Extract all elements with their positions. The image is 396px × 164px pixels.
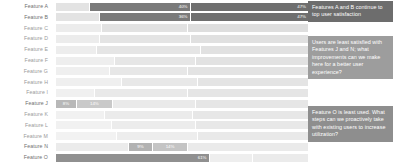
row-label: Feature G <box>0 66 52 77</box>
bar-track <box>56 78 308 86</box>
chart-row: Feature K <box>0 109 308 120</box>
bar-segment <box>188 24 308 32</box>
bar-segment <box>198 78 308 86</box>
bar-segment: 61% <box>56 154 209 162</box>
bar-value-label: 8% <box>56 100 76 108</box>
chart-row: Feature N9%14% <box>0 141 308 152</box>
bar-segment <box>253 154 308 162</box>
bar-segment <box>56 78 121 86</box>
chart-row: Feature I <box>0 87 308 98</box>
bar-segment <box>56 143 128 151</box>
bar-segment <box>113 100 195 108</box>
bar-segment <box>56 3 89 11</box>
bar-segment <box>198 132 308 140</box>
bar-segment <box>56 89 94 97</box>
bar-track <box>56 67 308 75</box>
bar-segment: 47% <box>191 13 309 21</box>
chart-row: Feature J8%14% <box>0 98 308 109</box>
bar-segment <box>100 35 190 43</box>
bar-segment <box>110 67 188 75</box>
chart-row: Feature E <box>0 44 308 55</box>
bar-value-label: 9% <box>129 143 151 151</box>
bar-segment <box>56 13 99 21</box>
bar-track <box>56 132 308 140</box>
bar-segment <box>196 57 309 65</box>
chart-row: Feature L <box>0 120 308 131</box>
bar-segment: 40% <box>90 3 190 11</box>
bar-segment <box>196 100 308 108</box>
bar-value-label: 47% <box>297 13 306 21</box>
bar-segment <box>122 78 197 86</box>
bar-value-label: 47% <box>297 3 306 11</box>
bar-segment <box>117 132 197 140</box>
annotation-callout: Feature O is least used. What steps can … <box>308 106 393 142</box>
bar-track <box>56 57 308 65</box>
row-label: Feature B <box>0 12 52 23</box>
bar-segment <box>188 89 308 97</box>
bar-segment: 9% <box>129 143 151 151</box>
bar-track <box>56 35 308 43</box>
bar-segment: 14% <box>77 100 112 108</box>
chart-row: Feature F <box>0 55 308 66</box>
row-label: Feature H <box>0 77 52 88</box>
bar-segment <box>201 46 309 54</box>
chart-row: Feature G <box>0 66 308 77</box>
chart-row: Feature O61% <box>0 152 308 163</box>
row-label: Feature D <box>0 33 52 44</box>
bar-segment <box>112 121 195 129</box>
bar-segment <box>97 46 200 54</box>
bar-segment <box>115 57 195 65</box>
bar-segment: 8% <box>56 100 76 108</box>
chart-row: Feature C <box>0 23 308 34</box>
bar-segment <box>56 24 101 32</box>
bar-value-label: 14% <box>153 143 188 151</box>
row-label: Feature J <box>0 98 52 109</box>
bar-segment <box>56 132 116 140</box>
chart-row: Feature H <box>0 77 308 88</box>
bar-segment <box>102 24 187 32</box>
bar-segment <box>188 67 308 75</box>
row-label: Feature L <box>0 120 52 131</box>
bar-segment <box>56 35 99 43</box>
bar-track: 8%14% <box>56 100 308 108</box>
bar-segment <box>56 67 109 75</box>
row-label: Feature K <box>0 109 52 120</box>
bar-segment: 36% <box>100 13 190 21</box>
annotation-panel: Features A and B continue to top user sa… <box>308 0 396 164</box>
bar-value-label: 61% <box>198 154 207 162</box>
bar-track: 40%47% <box>56 3 308 11</box>
bar-track: 36%47% <box>56 13 308 21</box>
bar-track <box>56 24 308 32</box>
bar-segment <box>56 111 104 119</box>
chart-row: Feature A40%47% <box>0 1 308 12</box>
bar-track <box>56 111 308 119</box>
bar-track <box>56 121 308 129</box>
bar-segment <box>56 121 111 129</box>
bar-value-label: 40% <box>179 3 188 11</box>
chart-row: Feature D <box>0 33 308 44</box>
bar-value-label: 36% <box>179 13 188 21</box>
row-label: Feature I <box>0 87 52 98</box>
row-label: Feature E <box>0 44 52 55</box>
bar-segment <box>191 35 309 43</box>
bar-segment <box>56 57 114 65</box>
chart-row: Feature M <box>0 131 308 142</box>
bar-segment <box>56 46 96 54</box>
row-label: Feature O <box>0 152 52 163</box>
bar-segment <box>188 143 308 151</box>
row-label: Feature F <box>0 55 52 66</box>
bar-track: 61% <box>56 154 308 162</box>
stacked-bar-chart: Feature A40%47%Feature B36%47%Feature CF… <box>0 0 308 164</box>
bar-track <box>56 46 308 54</box>
bar-value-label: 14% <box>77 100 112 108</box>
bar-segment <box>105 111 193 119</box>
bar-track <box>56 89 308 97</box>
bar-segment <box>210 154 253 162</box>
row-label: Feature M <box>0 131 52 142</box>
bar-segment <box>196 121 309 129</box>
bar-segment: 14% <box>153 143 188 151</box>
chart-row: Feature B36%47% <box>0 12 308 23</box>
annotation-callout: Features A and B continue to top user sa… <box>308 1 393 22</box>
bar-segment <box>193 111 308 119</box>
row-label: Feature A <box>0 1 52 12</box>
